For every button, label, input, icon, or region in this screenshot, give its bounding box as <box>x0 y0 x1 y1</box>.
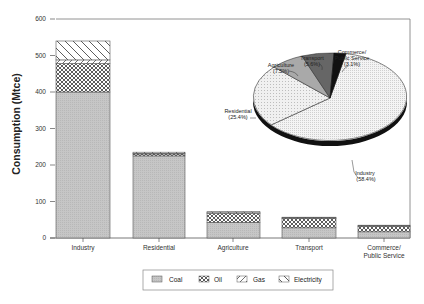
bar-industry <box>56 41 110 238</box>
y-tick-200: 200 <box>35 161 55 168</box>
svg-text:300: 300 <box>35 125 46 132</box>
x-label-residential: Residential <box>143 244 176 251</box>
y-tick-300: 300 <box>35 125 55 132</box>
y-tick-600: 600 <box>35 15 55 22</box>
svg-text:Gas: Gas <box>253 276 266 283</box>
y-tick-500: 500 <box>35 52 55 59</box>
svg-text:(3.1%): (3.1%) <box>344 61 360 67</box>
svg-text:(7.5%): (7.5%) <box>273 68 289 74</box>
svg-text:200: 200 <box>35 161 46 168</box>
svg-text:0: 0 <box>42 234 46 241</box>
y-axis: 0 100 200 300 400 500 600 <box>35 15 55 241</box>
svg-text:(25.4%): (25.4%) <box>228 114 247 120</box>
bar-residential <box>133 152 185 238</box>
svg-text:400: 400 <box>35 88 46 95</box>
bar-commerce-public-service <box>358 225 410 238</box>
x-label-agriculture: Agriculture <box>217 244 248 252</box>
svg-text:(5.6%): (5.6%) <box>304 61 320 67</box>
bar-agriculture <box>207 212 260 238</box>
svg-text:600: 600 <box>35 15 46 22</box>
pie-label-residential: Residential (25.4%) <box>224 108 256 120</box>
x-label-public-service: Public Service <box>363 252 405 259</box>
svg-text:100: 100 <box>35 198 46 205</box>
y-tick-100: 100 <box>35 198 55 205</box>
x-axis: Industry Residential Agriculture Transpo… <box>71 238 405 259</box>
bar-transport <box>282 217 336 238</box>
legend: Coal Oil Gas Electricity <box>143 270 333 290</box>
x-label-commerce: Commerce/ <box>367 244 401 251</box>
x-label-transport: Transport <box>295 244 323 252</box>
svg-text:Electricity: Electricity <box>294 276 323 284</box>
svg-text:Oil: Oil <box>214 276 223 283</box>
svg-text:(58.4%): (58.4%) <box>356 176 375 182</box>
x-label-industry: Industry <box>71 244 95 252</box>
y-tick-0: 0 <box>42 234 55 241</box>
y-tick-400: 400 <box>35 88 55 95</box>
chart-canvas: 0 100 200 300 400 500 600 <box>0 0 424 304</box>
svg-text:Coal: Coal <box>169 276 183 283</box>
pie-label-industry: Industry (58.4%) <box>352 160 376 182</box>
svg-text:500: 500 <box>35 52 46 59</box>
